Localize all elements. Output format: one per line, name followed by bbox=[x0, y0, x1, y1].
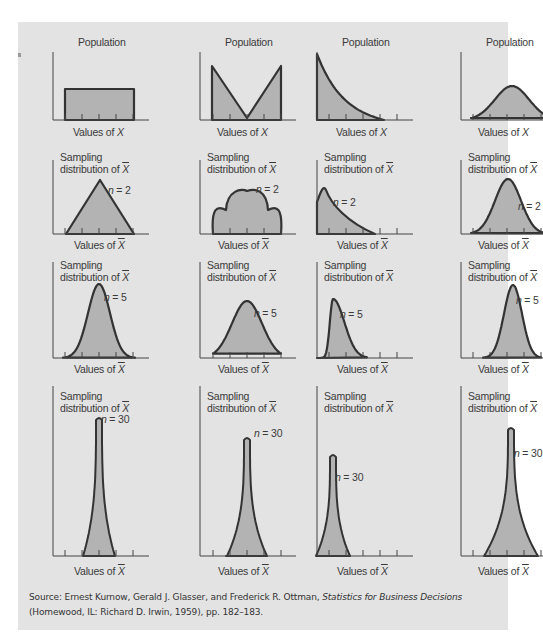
x-axis-label: Values of X bbox=[478, 566, 529, 577]
source-book-title: Statistics for Business Decisions bbox=[322, 592, 462, 602]
n-value: = 30 bbox=[520, 447, 543, 459]
y-label-prefix: distribution of bbox=[468, 402, 530, 414]
source-suffix: (Homewood, IL: Richard D. Irwin, 1959), … bbox=[29, 607, 263, 617]
source-citation: Source: Ernest Kurnow, Gerald J. Glasser… bbox=[29, 590, 499, 620]
x-label-prefix: Values of bbox=[478, 565, 522, 577]
distribution-plot bbox=[0, 0, 543, 644]
sample-size-label: n = 30 bbox=[514, 448, 542, 459]
x-bar-symbol: X bbox=[522, 565, 529, 577]
x-bar-symbol: X bbox=[530, 402, 537, 414]
source-prefix: Source: Ernest Kurnow, Gerald J. Glasser… bbox=[29, 592, 322, 602]
y-label-line2: distribution of X bbox=[468, 403, 537, 415]
y-axis-label: Samplingdistribution of X bbox=[468, 391, 537, 414]
